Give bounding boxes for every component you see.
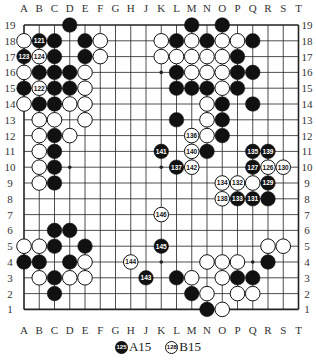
black-stone: 123 <box>17 49 32 64</box>
column-label: Q <box>249 2 257 14</box>
column-label: G <box>112 2 120 14</box>
row-label: 3 <box>7 272 13 284</box>
column-label: H <box>127 324 135 336</box>
move-number: 121 <box>34 37 45 44</box>
column-label: R <box>264 324 272 336</box>
column-label: J <box>144 2 149 14</box>
white-stone <box>200 113 215 128</box>
row-label: 11 <box>302 145 313 157</box>
star-point <box>159 71 163 75</box>
white-stone <box>261 239 276 254</box>
column-label: T <box>295 2 302 14</box>
move-number: 132 <box>232 179 243 186</box>
white-stone <box>78 255 93 270</box>
white-stone <box>78 271 93 286</box>
black-stone: 141 <box>154 144 169 159</box>
white-stone <box>78 97 93 112</box>
white-stone: 142 <box>184 160 199 175</box>
row-label: 18 <box>5 35 17 47</box>
black-stone <box>47 144 62 159</box>
black-stone <box>184 286 199 301</box>
black-stone <box>32 65 47 80</box>
column-label: D <box>66 324 74 336</box>
black-stone <box>169 81 184 96</box>
white-stone <box>17 97 32 112</box>
column-label: S <box>280 324 286 336</box>
white-stone <box>17 65 32 80</box>
column-label: H <box>127 2 135 14</box>
star-point <box>68 165 72 169</box>
black-stone <box>245 97 260 112</box>
white-stone: 122 <box>32 81 47 96</box>
row-label: 19 <box>302 19 314 31</box>
white-stone-icon: 128 <box>165 341 178 354</box>
move-notes: 125 A15 128 B15 <box>0 336 316 358</box>
move-number: 126 <box>263 164 274 171</box>
move-number: 127 <box>247 164 258 171</box>
black-stone <box>47 223 62 238</box>
row-label: 1 <box>7 303 13 315</box>
black-stone <box>261 255 276 270</box>
column-label: M <box>187 324 197 336</box>
row-label: 4 <box>7 256 13 268</box>
black-stone <box>47 176 62 191</box>
black-stone <box>62 223 77 238</box>
row-label: 18 <box>302 35 314 47</box>
column-label: P <box>234 324 240 336</box>
black-stone <box>200 302 215 317</box>
move-number: 123 <box>19 53 30 60</box>
white-stone <box>245 286 260 301</box>
move-number: 141 <box>156 148 167 155</box>
move-number: 138 <box>217 195 228 202</box>
column-label: O <box>218 2 226 14</box>
black-stone <box>47 239 62 254</box>
column-label: A <box>20 324 28 336</box>
column-label: T <box>295 324 302 336</box>
move-number: 142 <box>186 164 197 171</box>
white-stone <box>78 81 93 96</box>
move-note: 128 B15 <box>165 339 201 355</box>
white-stone: 132 <box>230 176 245 191</box>
black-stone: 145 <box>154 239 169 254</box>
black-stone <box>32 255 47 270</box>
white-stone <box>200 65 215 80</box>
black-stone <box>169 34 184 49</box>
black-stone <box>245 271 260 286</box>
row-label: 9 <box>7 177 13 189</box>
black-stone <box>184 18 199 33</box>
black-stone-icon: 125 <box>115 341 128 354</box>
star-point <box>159 260 163 264</box>
black-stone <box>245 65 260 80</box>
go-board-diagram: AABBCCDDEEFFGGHHJJKKLLMMNNOOPPQQRRSSTT19… <box>0 0 316 340</box>
black-stone <box>47 160 62 175</box>
move-number: 140 <box>186 148 197 155</box>
black-stone <box>62 81 77 96</box>
move-number: 143 <box>141 274 152 281</box>
row-label: 17 <box>302 51 314 63</box>
black-stone: 143 <box>139 271 154 286</box>
row-label: 15 <box>302 82 314 94</box>
column-label: K <box>157 2 165 14</box>
row-label: 17 <box>5 51 17 63</box>
row-label: 5 <box>7 240 13 252</box>
white-stone: 126 <box>261 160 276 175</box>
white-stone <box>154 49 169 64</box>
row-label: 16 <box>5 66 17 78</box>
white-stone <box>184 34 199 49</box>
white-stone <box>215 34 230 49</box>
star-point <box>251 260 255 264</box>
row-label: 2 <box>7 288 13 300</box>
move-number: 137 <box>171 164 182 171</box>
white-stone <box>200 97 215 112</box>
column-label: R <box>264 2 272 14</box>
row-label: 1 <box>304 303 310 315</box>
white-stone: 140 <box>184 144 199 159</box>
note-position: A15 <box>129 339 151 355</box>
column-label: C <box>51 324 58 336</box>
column-label: E <box>82 324 89 336</box>
black-stone <box>62 65 77 80</box>
black-stone <box>47 286 62 301</box>
black-stone <box>215 18 230 33</box>
column-label: P <box>234 2 240 14</box>
white-stone <box>32 239 47 254</box>
